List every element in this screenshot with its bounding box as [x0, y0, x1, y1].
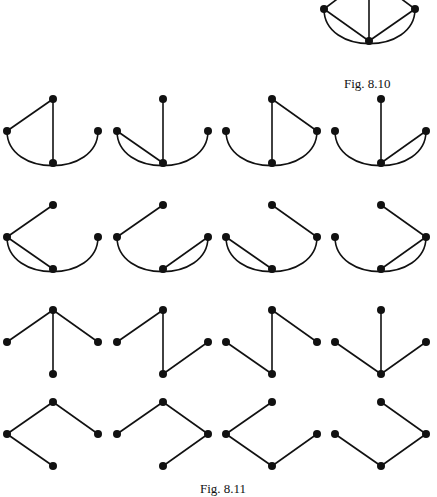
spanning-tree-2 [113, 95, 212, 167]
vertex-T [377, 398, 385, 406]
edge [381, 205, 426, 237]
vertex-B [159, 462, 167, 470]
vertex-L [113, 233, 121, 241]
vertex-B [49, 370, 57, 378]
edge [163, 402, 208, 434]
edge [324, 9, 369, 41]
edge [369, 0, 415, 9]
vertex-L [222, 430, 230, 438]
edge [272, 434, 317, 466]
edge [381, 434, 426, 466]
vertex-L [331, 233, 339, 241]
spanning-tree-5 [3, 201, 102, 273]
figure-8-10-graph [320, 0, 419, 45]
edge [53, 310, 98, 342]
spanning-tree-6 [113, 201, 212, 273]
spanning-tree-1 [3, 95, 102, 167]
edge [7, 237, 53, 269]
vertex-L [320, 5, 328, 13]
spanning-tree-15 [222, 398, 321, 470]
vertex-L [113, 127, 121, 135]
vertex-R [204, 233, 212, 241]
vertex-T [159, 95, 167, 103]
spanning-tree-11 [222, 306, 321, 378]
vertex-T [159, 201, 167, 209]
vertex-T [49, 306, 57, 314]
edge [117, 131, 163, 163]
vertex-T [159, 306, 167, 314]
vertex-B [49, 265, 57, 273]
spanning-tree-3 [222, 95, 321, 167]
vertex-T [268, 95, 276, 103]
vertex-B [268, 159, 276, 167]
vertex-L [331, 430, 339, 438]
spanning-tree-4 [331, 95, 430, 167]
vertex-T [377, 95, 385, 103]
vertex-B [377, 462, 385, 470]
vertex-B [365, 37, 373, 45]
edge [53, 402, 98, 434]
vertex-R [204, 430, 212, 438]
edge [7, 205, 53, 237]
vertex-R [422, 233, 430, 241]
vertex-B [268, 370, 276, 378]
graph-fig-8-10 [320, 0, 419, 45]
vertex-T [268, 398, 276, 406]
spanning-tree-8 [331, 201, 430, 273]
vertex-B [377, 159, 385, 167]
edge [7, 310, 53, 342]
vertex-R [94, 233, 102, 241]
vertex-R [422, 338, 430, 346]
vertex-L [3, 338, 11, 346]
spanning-tree-9 [3, 306, 102, 378]
vertex-B [49, 462, 57, 470]
vertex-T [377, 201, 385, 209]
edge [163, 342, 208, 374]
edge [7, 434, 53, 466]
vertex-B [159, 159, 167, 167]
vertex-T [49, 95, 57, 103]
vertex-L [113, 338, 121, 346]
edge [7, 99, 53, 131]
edge [226, 434, 272, 466]
vertex-L [3, 430, 11, 438]
vertex-R [313, 338, 321, 346]
spanning-tree-14 [113, 398, 212, 470]
caption-fig-8-10: Fig. 8.10 [344, 76, 391, 92]
vertex-T [159, 398, 167, 406]
vertex-L [3, 233, 11, 241]
vertex-T [268, 201, 276, 209]
figure-8-11-spanning-trees [3, 95, 430, 470]
spanning-tree-13 [3, 398, 102, 470]
edge [226, 402, 272, 434]
vertex-T [377, 306, 385, 314]
vertex-B [49, 159, 57, 167]
vertex-T [49, 398, 57, 406]
vertex-R [422, 430, 430, 438]
vertex-L [113, 430, 121, 438]
caption-fig-8-11: Fig. 8.11 [200, 481, 246, 497]
vertex-B [268, 462, 276, 470]
spanning-tree-7 [222, 201, 321, 273]
vertex-B [268, 265, 276, 273]
vertex-B [159, 370, 167, 378]
edge [335, 342, 381, 374]
edge [163, 434, 208, 466]
vertex-R [94, 338, 102, 346]
vertex-R [313, 233, 321, 241]
edge [381, 342, 426, 374]
vertex-T [268, 306, 276, 314]
edge [381, 131, 426, 163]
edge [117, 310, 163, 342]
vertex-R [411, 5, 419, 13]
vertex-L [331, 338, 339, 346]
vertex-B [377, 265, 385, 273]
edge [272, 99, 317, 131]
spanning-tree-10 [113, 306, 212, 378]
edge [272, 310, 317, 342]
vertex-L [331, 127, 339, 135]
edge [369, 9, 415, 41]
vertex-R [313, 430, 321, 438]
vertex-L [3, 127, 11, 135]
